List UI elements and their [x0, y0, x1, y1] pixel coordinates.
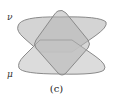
nu-label: ν [7, 13, 12, 22]
mu-label: μ [7, 70, 13, 79]
figure-caption: (c) [0, 84, 113, 94]
